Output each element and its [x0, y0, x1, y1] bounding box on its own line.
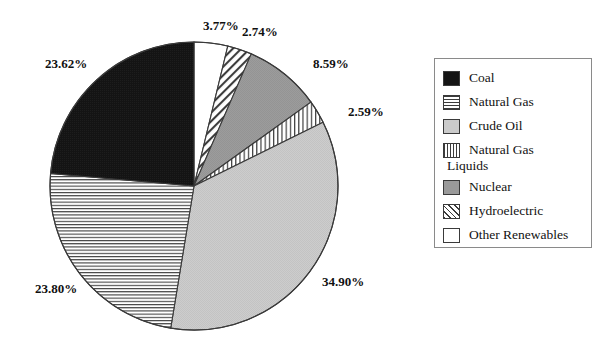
legend-label: Hydroelectric — [469, 204, 543, 218]
legend-item-natural-gas[interactable]: Natural Gas — [443, 91, 585, 113]
chart-legend: CoalNatural GasCrude OilNatural GasLiqui… — [434, 58, 592, 248]
pie-value-label: 23.80% — [35, 281, 77, 297]
legend-label: Other Renewables — [469, 228, 568, 242]
legend-swatch-white-icon — [443, 228, 460, 243]
legend-swatch-solid-light-gray-icon — [443, 119, 460, 134]
legend-item-crude-oil[interactable]: Crude Oil — [443, 115, 585, 137]
legend-item-other-renewables[interactable]: Other Renewables — [443, 224, 585, 246]
pie-value-label: 23.62% — [45, 56, 87, 72]
legend-swatch-diagonal-hatch-icon — [443, 204, 460, 219]
legend-item-nuclear[interactable]: Nuclear — [443, 176, 585, 198]
pie-chart-figure: 3.77%2.74%8.59%2.59%34.90%23.80%23.62% C… — [0, 0, 612, 357]
pie-value-label: 3.77% — [203, 18, 239, 34]
pie-value-label: 2.74% — [242, 24, 278, 40]
legend-label-continuation: Liquids — [447, 158, 585, 174]
legend-item-coal[interactable]: Coal — [443, 67, 585, 89]
legend-label: Coal — [469, 71, 495, 85]
pie-value-label: 34.90% — [322, 274, 364, 290]
legend-label: Natural Gas — [469, 95, 534, 109]
legend-swatch-solid-medium-gray-icon — [443, 180, 460, 195]
legend-swatch-vertical-lines-icon — [443, 143, 460, 158]
pie-value-label: 2.59% — [348, 104, 384, 120]
legend-swatch-horizontal-lines-icon — [443, 95, 460, 110]
pie-slices-group — [50, 42, 338, 330]
legend-label: Crude Oil — [469, 119, 523, 133]
legend-label: Nuclear — [469, 180, 512, 194]
pie-value-label: 8.59% — [313, 56, 349, 72]
pie-slice-natural-gas[interactable] — [50, 174, 194, 329]
legend-item-hydroelectric[interactable]: Hydroelectric — [443, 200, 585, 222]
legend-label: Natural Gas — [469, 143, 534, 157]
legend-swatch-solid-black-icon — [443, 71, 460, 86]
